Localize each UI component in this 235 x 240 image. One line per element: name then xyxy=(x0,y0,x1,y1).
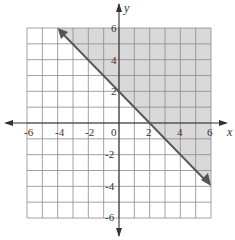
y-axis-up-arrow-icon xyxy=(116,3,122,12)
y-tick: 4 xyxy=(111,54,117,66)
x-tick: -2 xyxy=(85,126,94,138)
coordinate-plane: x y -6 -4 -2 0 2 4 6 6 4 2 -2 -4 -6 xyxy=(0,0,235,240)
x-tick: 0 xyxy=(111,126,117,138)
x-axis-left-arrow-icon xyxy=(4,120,13,126)
x-tick: -4 xyxy=(55,126,65,138)
y-tick: -2 xyxy=(105,148,114,160)
x-tick: 4 xyxy=(177,126,183,138)
x-axis-label: x xyxy=(226,125,233,139)
y-tick: 6 xyxy=(111,22,117,34)
y-tick: -4 xyxy=(105,180,115,192)
x-tick: 6 xyxy=(207,126,213,138)
x-tick: 2 xyxy=(146,126,152,138)
y-axis-label: y xyxy=(123,1,130,15)
y-tick: -6 xyxy=(105,211,115,223)
x-tick: -6 xyxy=(24,126,34,138)
y-tick: 2 xyxy=(111,85,117,97)
y-axis-down-arrow-icon xyxy=(116,228,122,237)
